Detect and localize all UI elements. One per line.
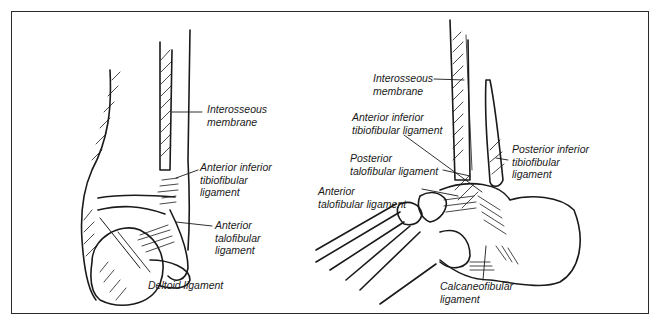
label-calcaneofibular-ligament: Calcaneofibular ligament bbox=[440, 280, 513, 305]
label-anterior-inferior-tibiofibular-ligament-right: Anterior inferior tibiofibular ligament bbox=[352, 111, 442, 136]
label-anterior-talofibular-ligament-right: Anterior talofibular ligament bbox=[318, 185, 406, 210]
label-interosseous-membrane-left: Interosseous membrane bbox=[207, 103, 267, 128]
label-deltoid-ligament: Deltoid ligament bbox=[148, 279, 223, 292]
label-anterior-inferior-tibiofibular-ligament-left: Anterior inferior tibiofibular ligament bbox=[200, 161, 272, 199]
label-anterior-talofibular-ligament-left: Anterior talofibular ligament bbox=[215, 219, 261, 257]
label-interosseous-membrane-right: Interosseous membrane bbox=[373, 72, 433, 97]
left-ankle-anterior-view bbox=[81, 30, 212, 305]
label-posterior-talofibular-ligament: Posterior talofibular ligament bbox=[350, 152, 438, 177]
label-posterior-inferior-tibiofibular-ligament: Posterior inferior tibiofibular ligament bbox=[512, 143, 589, 181]
